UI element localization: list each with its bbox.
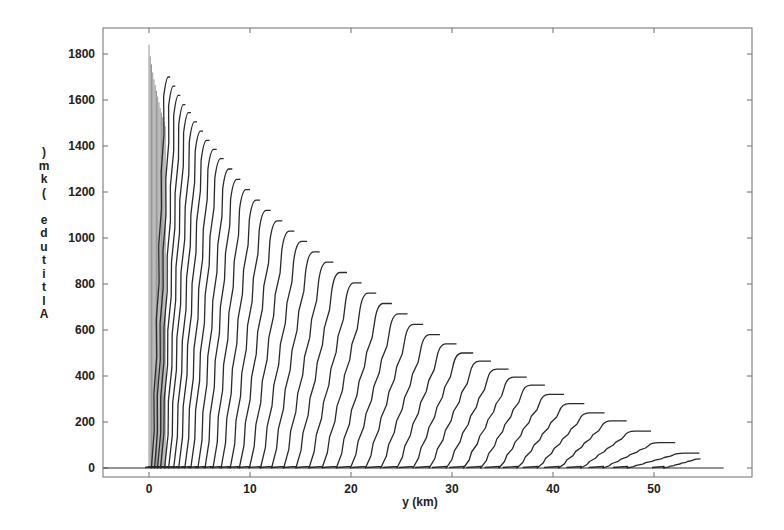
x-axis-label: y (km) xyxy=(402,495,437,509)
altitude-profiles xyxy=(145,77,701,468)
y-axis-label-char: i xyxy=(37,268,51,282)
altitude-profile-line xyxy=(399,353,474,468)
y-tick-label: 200 xyxy=(75,415,95,429)
altitude-profile-line xyxy=(485,394,565,468)
y-axis-label-char: e xyxy=(37,214,51,228)
y-axis-ticks: 020040060080010001200140016001800 xyxy=(68,47,752,475)
y-tick-label: 1400 xyxy=(68,139,95,153)
x-tick-label: 40 xyxy=(546,482,560,496)
x-tick-label: 0 xyxy=(146,482,153,496)
y-axis-label-char: t xyxy=(37,254,51,268)
y-axis-label-char: m xyxy=(37,160,51,174)
y-axis-label-char: u xyxy=(37,241,51,255)
y-axis-label-char: ( xyxy=(37,187,51,201)
x-tick-label: 30 xyxy=(445,482,459,496)
altitude-profile-line xyxy=(613,453,700,468)
y-axis-label-char: d xyxy=(37,227,51,241)
y-tick-label: 600 xyxy=(75,323,95,337)
y-tick-label: 800 xyxy=(75,277,95,291)
y-axis-label-char: l xyxy=(37,295,51,309)
y-axis-label-char xyxy=(37,200,51,214)
altitude-profile-line xyxy=(652,459,701,468)
altitude-profile-line xyxy=(415,361,491,468)
y-axis-label-char: t xyxy=(37,281,51,295)
altitude-profile-line xyxy=(466,385,545,468)
x-tick-label: 50 xyxy=(647,482,661,496)
y-axis-label-char: ) xyxy=(37,146,51,160)
x-tick-label: 20 xyxy=(344,482,358,496)
y-axis-label-char: A xyxy=(37,308,51,322)
y-axis-label-char: k xyxy=(37,173,51,187)
y-tick-label: 1800 xyxy=(68,47,95,61)
altitude-profile-line xyxy=(283,273,347,469)
altitude-profile-line xyxy=(383,344,457,468)
y-tick-label: 0 xyxy=(88,461,95,475)
chart-canvas: 01020304050 0200400600800100012001400160… xyxy=(0,0,784,530)
altitude-profile-line xyxy=(366,335,440,468)
y-tick-label: 1600 xyxy=(68,93,95,107)
x-axis-ticks: 01020304050 xyxy=(146,28,661,496)
altitude-profile-line xyxy=(503,404,585,468)
altitude-profile-line xyxy=(259,252,320,468)
y-tick-label: 1200 xyxy=(68,185,95,199)
altitude-profile-line xyxy=(308,293,376,468)
y-tick-label: 400 xyxy=(75,369,95,383)
x-tick-label: 10 xyxy=(243,482,257,496)
altitude-profile-line xyxy=(589,443,676,468)
plot-frame xyxy=(103,28,752,477)
y-tick-label: 1000 xyxy=(68,231,95,245)
altitude-profile-line xyxy=(432,369,509,468)
y-axis-label: )mk( edutitlA xyxy=(37,146,51,322)
